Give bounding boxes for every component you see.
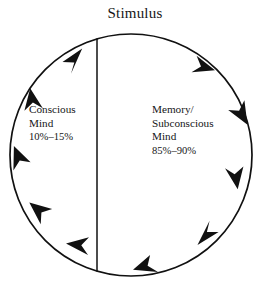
subconscious-line-3: Mind (152, 130, 214, 144)
cycle-graphic (0, 0, 270, 291)
conscious-line-2: Mind (29, 117, 76, 131)
label-subconscious-mind: Memory/ Subconscious Mind 85%–90% (152, 103, 214, 157)
arrowhead-8 (225, 167, 243, 190)
cycle-diagram: Stimulus (0, 0, 270, 291)
subconscious-line-2: Subconscious (152, 117, 214, 131)
conscious-percent: 10%–15% (29, 130, 76, 144)
label-conscious-mind: Conscious Mind 10%–15% (29, 103, 76, 144)
arrowhead-6 (133, 255, 158, 272)
conscious-line-1: Conscious (29, 103, 76, 117)
cycle-circle (10, 34, 252, 276)
subconscious-percent: 85%–90% (152, 144, 214, 158)
subconscious-line-1: Memory/ (152, 103, 214, 117)
arrowheads (13, 49, 247, 272)
arrowhead-3 (13, 146, 30, 171)
arrowhead-5 (66, 237, 89, 255)
arrowhead-9 (228, 100, 247, 125)
arrowhead-4 (29, 203, 52, 225)
